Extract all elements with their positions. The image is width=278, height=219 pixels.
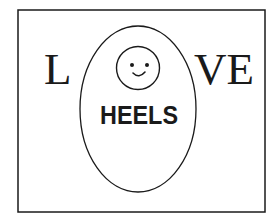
love-heels-logo: L VE HEELS	[0, 0, 278, 219]
smiley-face-icon	[117, 47, 160, 90]
letters-ve: VE	[194, 44, 254, 94]
letter-l: L	[44, 44, 72, 94]
heels-word: HEELS	[100, 101, 178, 129]
